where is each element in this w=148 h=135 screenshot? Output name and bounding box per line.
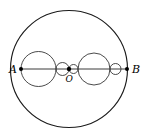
point-a-group: A bbox=[8, 63, 23, 76]
point-a-dot bbox=[19, 67, 23, 71]
point-b-label: B bbox=[131, 63, 140, 76]
point-a-label: A bbox=[8, 63, 17, 76]
point-o-dot bbox=[67, 67, 71, 71]
geometry-figure-svg: A O B bbox=[0, 0, 148, 135]
point-b-dot bbox=[125, 67, 129, 71]
geometry-figure-container: A O B bbox=[0, 0, 148, 135]
point-o-label: O bbox=[66, 74, 74, 84]
